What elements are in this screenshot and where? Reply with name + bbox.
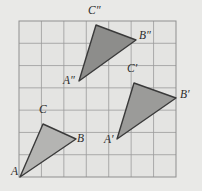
label-base: B (77, 132, 84, 144)
vertex-label-B-double-prime: B″ (139, 30, 151, 42)
label-base: C (39, 103, 47, 115)
vertex-label-C-double-prime: C″ (88, 5, 100, 17)
label-prime-marks: ″ (146, 29, 151, 41)
label-base: B (139, 29, 146, 41)
vertex-label-A-prime: A′ (104, 134, 114, 146)
label-prime-marks: ″ (70, 74, 75, 86)
label-prime-marks: ′ (111, 133, 114, 145)
vertex-label-B-prime: B′ (180, 89, 190, 101)
label-prime-marks: ′ (135, 62, 138, 74)
label-base: C (88, 4, 96, 16)
vertex-label-A-double-prime: A″ (63, 75, 75, 87)
label-base: A (63, 74, 70, 86)
label-base: A (104, 133, 111, 145)
vertex-label-C-prime: C′ (127, 63, 137, 75)
geometry-figure (0, 0, 202, 191)
vertex-label-B: B (77, 133, 84, 145)
label-base: A (11, 165, 18, 177)
label-base: B (180, 88, 187, 100)
vertex-label-A: A (11, 166, 18, 178)
label-base: C (127, 62, 135, 74)
label-prime-marks: ″ (96, 4, 101, 16)
label-prime-marks: ′ (187, 88, 190, 100)
vertex-label-C: C (39, 104, 47, 116)
